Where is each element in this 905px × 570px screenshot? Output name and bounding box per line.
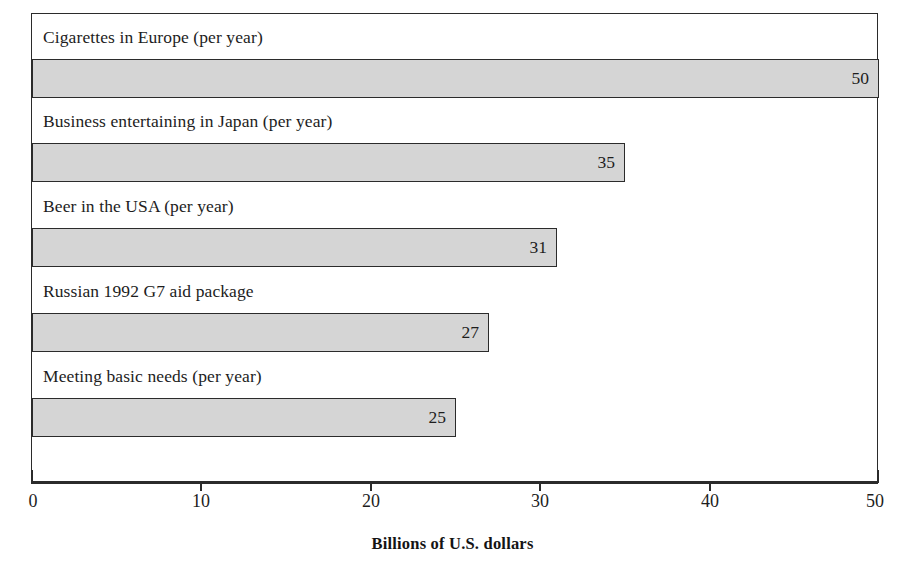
bar-chart: Cigarettes in Europe (per year) 50 Busin… — [0, 0, 905, 570]
bar-category-label: Business entertaining in Japan (per year… — [43, 111, 332, 132]
bar-category-label: Meeting basic needs (per year) — [43, 366, 262, 387]
bar-value-label: 50 — [852, 70, 879, 88]
bar-rect: 35 — [32, 143, 625, 182]
bar-label-row: Meeting basic needs (per year) — [32, 354, 262, 398]
x-axis-title: Billions of U.S. dollars — [0, 534, 905, 554]
bar-rect: 25 — [32, 398, 456, 437]
x-axis-tick-0 — [31, 470, 33, 483]
bar-rect: 50 — [32, 59, 879, 98]
x-axis-tick-label: 10 — [192, 491, 210, 512]
bar-value-label: 31 — [530, 239, 557, 257]
x-axis-tick-label: 50 — [866, 491, 884, 512]
x-axis-tick-label: 0 — [29, 491, 38, 512]
x-axis-tick-30 — [539, 482, 541, 491]
x-axis-line — [31, 482, 878, 484]
x-axis-tick-20 — [370, 482, 372, 491]
x-axis-tick-label: 40 — [701, 491, 719, 512]
bar-value-label: 27 — [462, 324, 489, 342]
plot-area: Cigarettes in Europe (per year) 50 Busin… — [31, 13, 878, 482]
bar-category-label: Beer in the USA (per year) — [43, 196, 234, 217]
bar-value-label: 35 — [598, 154, 625, 172]
bar-label-row: Beer in the USA (per year) — [32, 184, 234, 228]
bar-label-row: Business entertaining in Japan (per year… — [32, 99, 332, 143]
bar-rect: 27 — [32, 313, 489, 352]
bar-label-row: Russian 1992 G7 aid package — [32, 269, 254, 313]
bar-category-label: Cigarettes in Europe (per year) — [43, 27, 263, 48]
x-axis-tick-50 — [877, 470, 879, 483]
bar-label-row: Cigarettes in Europe (per year) — [32, 15, 263, 59]
x-axis-tick-label: 20 — [362, 491, 380, 512]
x-axis-tick-10 — [200, 482, 202, 491]
x-axis-tick-40 — [709, 482, 711, 491]
x-axis-tick-label: 30 — [531, 491, 549, 512]
bar-rect: 31 — [32, 228, 557, 267]
bar-value-label: 25 — [429, 409, 456, 427]
bar-category-label: Russian 1992 G7 aid package — [43, 281, 254, 302]
